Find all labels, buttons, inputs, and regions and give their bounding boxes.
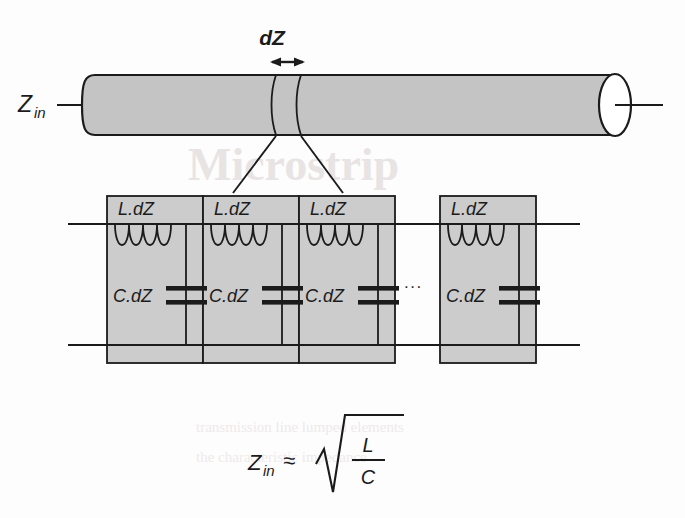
cell-4-capacitor-plate-bottom <box>499 300 540 305</box>
cell-2-capacitor-plate-bottom <box>262 300 303 305</box>
zin-label-main: Z <box>17 91 33 117</box>
figure-canvas: Microstrip transmission line lumped elem… <box>0 0 685 518</box>
cell-3-capacitor-plate-top <box>358 286 399 291</box>
cell-3-capacitor-label: C.dZ <box>305 286 345 306</box>
equation-lhs-subscript: in <box>263 462 275 479</box>
cell-box-3 <box>299 196 395 363</box>
cell-2-capacitor-plate-top <box>262 286 303 291</box>
zin-label: Z in <box>17 91 46 121</box>
dz-annotation: dZ <box>259 26 305 67</box>
continuation-ellipsis: ... <box>404 273 423 292</box>
equation-lhs: Z <box>247 450 263 475</box>
equation-approx-operator: ≈ <box>283 448 295 473</box>
cylinder-group: Z in dZ <box>17 26 663 136</box>
cell-4-capacitor-plate-top <box>499 286 540 291</box>
dz-label: dZ <box>259 26 286 49</box>
cell-4-capacitor-label: C.dZ <box>446 286 486 306</box>
cell-box-1 <box>107 196 203 363</box>
watermark-bottom-line-1: transmission line lumped elements <box>196 419 404 435</box>
cell-2-capacitor-label: C.dZ <box>209 286 249 306</box>
watermark-bottom-line-2: the characteristic impedance <box>196 449 367 465</box>
dz-double-arrow <box>270 58 305 67</box>
transmission-line-diagram: Microstrip transmission line lumped elem… <box>0 0 685 518</box>
cell-box-2 <box>203 196 299 363</box>
equation-denominator: C <box>361 466 376 488</box>
cell-1-capacitor-plate-bottom <box>166 300 207 305</box>
cell-4-inductor-label: L.dZ <box>451 199 488 219</box>
cell-box-4 <box>440 196 536 363</box>
equation-numerator: L <box>362 434 373 456</box>
ladder-network: L.dZ C.dZ L.dZ C.dZ L.dZ <box>68 196 580 363</box>
cell-2-inductor-label: L.dZ <box>214 199 251 219</box>
cell-3-capacitor-plate-bottom <box>358 300 399 305</box>
cylinder-body <box>82 75 615 135</box>
watermark-title: Microstrip <box>188 139 399 190</box>
cell-1-capacitor-label: C.dZ <box>113 286 153 306</box>
cell-3-inductor-label: L.dZ <box>310 199 347 219</box>
zin-label-subscript: in <box>34 104 46 121</box>
cell-1-inductor-label: L.dZ <box>118 199 155 219</box>
cell-1-capacitor-plate-top <box>166 286 207 291</box>
